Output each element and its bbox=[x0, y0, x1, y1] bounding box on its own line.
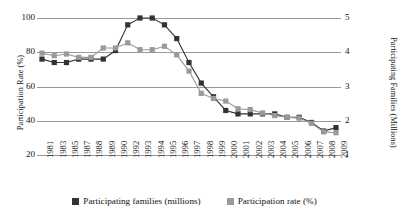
x-axis-tick-label: 2000 bbox=[229, 141, 239, 158]
y-axis-right-tick-mark bbox=[337, 52, 341, 53]
x-axis-tick-label: 2004 bbox=[278, 141, 288, 158]
x-axis-tick-label: 1983 bbox=[58, 141, 68, 158]
y-axis-left-tick-label: 60 bbox=[9, 81, 35, 91]
x-axis-tick-label: 1992 bbox=[131, 141, 141, 158]
data-point-marker bbox=[248, 107, 253, 112]
data-point-marker bbox=[52, 53, 57, 58]
x-axis-tick-label: 1999 bbox=[217, 141, 227, 158]
x-axis-tick-label: 2003 bbox=[266, 141, 276, 158]
data-point-marker bbox=[125, 22, 130, 27]
data-point-marker bbox=[113, 45, 118, 50]
legend-swatch-rate bbox=[227, 198, 234, 205]
data-point-marker bbox=[223, 108, 228, 113]
data-point-marker bbox=[199, 80, 204, 85]
data-point-marker bbox=[174, 52, 179, 57]
y-axis-left-tick-mark bbox=[37, 87, 41, 88]
data-point-marker bbox=[162, 22, 167, 27]
data-point-marker bbox=[272, 113, 277, 118]
y-axis-right-tick-mark bbox=[337, 121, 341, 122]
data-point-marker bbox=[150, 15, 155, 20]
data-point-marker bbox=[186, 68, 191, 73]
data-point-marker bbox=[101, 57, 106, 62]
data-point-marker bbox=[199, 91, 204, 96]
data-point-marker bbox=[211, 96, 216, 101]
series-families bbox=[39, 15, 338, 133]
x-axis-tick-label: 1989 bbox=[107, 141, 117, 158]
x-axis-tick-label: 2005 bbox=[290, 141, 300, 158]
x-axis-tick-label: 2001 bbox=[241, 141, 251, 158]
data-point-marker bbox=[64, 60, 69, 65]
data-point-marker bbox=[186, 60, 191, 65]
x-axis-tick-label: 2007 bbox=[315, 141, 325, 158]
legend-item-rate: Participation rate (%) bbox=[227, 196, 317, 206]
data-point-marker bbox=[174, 36, 179, 41]
x-axis-tick-label: 1997 bbox=[192, 141, 202, 158]
y-axis-right-tick-label: 4 bbox=[345, 46, 371, 56]
x-axis-tick-label: 1995 bbox=[168, 141, 178, 158]
x-axis-tick-label: 2008 bbox=[327, 141, 337, 158]
x-axis-tick-label: 1981 bbox=[45, 141, 55, 158]
series-rate bbox=[39, 40, 338, 135]
data-point-marker bbox=[101, 45, 106, 50]
data-point-marker bbox=[223, 98, 228, 103]
y-axis-left-tick-label: 100 bbox=[9, 12, 35, 22]
y-axis-left-tick-label: 80 bbox=[9, 46, 35, 56]
y-axis-right-tick-mark bbox=[337, 87, 341, 88]
chart-legend: Participating families (millions) Partic… bbox=[0, 192, 389, 210]
y-axis-left-tick-mark bbox=[37, 121, 41, 122]
data-point-marker bbox=[162, 44, 167, 49]
plot-area bbox=[41, 18, 337, 155]
x-axis-tick-label: 2006 bbox=[303, 141, 313, 158]
series-line bbox=[42, 18, 336, 131]
data-point-marker bbox=[333, 125, 338, 130]
data-point-marker bbox=[235, 111, 240, 116]
x-axis-tick-label: 1993 bbox=[143, 141, 153, 158]
data-point-marker bbox=[321, 129, 326, 134]
y-axis-right-tick-label: 2 bbox=[345, 115, 371, 125]
y-axis-left-tick-mark bbox=[37, 155, 41, 156]
x-axis-tick-label: 1994 bbox=[156, 141, 166, 158]
data-point-marker bbox=[297, 116, 302, 121]
series-line bbox=[42, 43, 336, 133]
y-axis-right-tick-mark bbox=[337, 18, 341, 19]
data-point-marker bbox=[150, 47, 155, 52]
data-point-marker bbox=[284, 115, 289, 120]
y-axis-left-tick-mark bbox=[37, 52, 41, 53]
y-axis-left-tick-label: 20 bbox=[9, 149, 35, 159]
y-axis-right-tick-label: 5 bbox=[345, 12, 371, 22]
data-point-marker bbox=[137, 15, 142, 20]
data-point-marker bbox=[309, 121, 314, 126]
x-axis-tick-label: 1996 bbox=[180, 141, 190, 158]
x-axis-tick-label: 1990 bbox=[119, 141, 129, 158]
y-axis-left-tick-mark bbox=[37, 18, 41, 19]
data-point-marker bbox=[333, 130, 338, 135]
data-point-marker bbox=[235, 106, 240, 111]
x-axis-labels: 1981198319851987198819891990199219931994… bbox=[41, 157, 337, 191]
data-point-marker bbox=[64, 51, 69, 56]
legend-label-families: Participating families (millions) bbox=[83, 196, 200, 206]
legend-swatch-families bbox=[72, 198, 79, 205]
data-point-marker bbox=[76, 55, 81, 60]
x-axis-tick-label: 2009 bbox=[339, 141, 349, 158]
x-axis-tick-label: 1988 bbox=[94, 141, 104, 158]
series-plot bbox=[41, 18, 337, 155]
y-axis-left-tick-label: 40 bbox=[9, 115, 35, 125]
x-axis-tick-label: 1985 bbox=[70, 141, 80, 158]
y-axis-right-title: Participating Families (Millions) bbox=[389, 18, 398, 168]
legend-label-rate: Participation rate (%) bbox=[238, 196, 317, 206]
data-point-marker bbox=[88, 55, 93, 60]
y-axis-right-tick-label: 3 bbox=[345, 81, 371, 91]
legend-item-families: Participating families (millions) bbox=[72, 196, 200, 206]
data-point-marker bbox=[137, 47, 142, 52]
data-point-marker bbox=[125, 40, 130, 45]
x-axis-tick-label: 1987 bbox=[82, 141, 92, 158]
data-point-marker bbox=[52, 60, 57, 65]
x-axis-tick-label: 2002 bbox=[254, 141, 264, 158]
data-point-marker bbox=[260, 110, 265, 115]
x-axis-tick-label: 1998 bbox=[205, 141, 215, 158]
data-point-marker bbox=[39, 57, 44, 62]
